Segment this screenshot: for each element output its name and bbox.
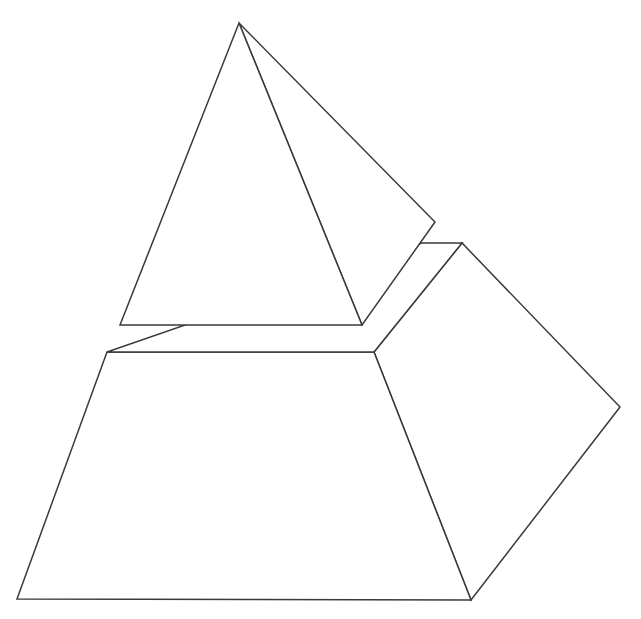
pyramid-figure-canvas (0, 0, 641, 619)
